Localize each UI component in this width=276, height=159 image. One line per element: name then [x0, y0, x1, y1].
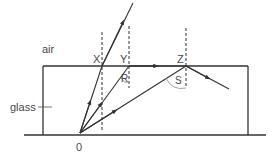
ray-o-to-x-arrow	[80, 102, 90, 133]
ray-z-reflected-arrow	[186, 66, 208, 78]
ray-o-to-y-arrow	[80, 104, 101, 133]
label-point-z: Z	[177, 53, 184, 65]
label-angle-r: R	[121, 73, 128, 84]
glass-block	[43, 66, 248, 135]
ray-o-to-z-arrow	[80, 111, 115, 133]
label-air: air	[42, 43, 55, 55]
label-point-y: Y	[120, 53, 128, 65]
label-origin: 0	[76, 141, 82, 153]
label-point-x: X	[93, 53, 101, 65]
label-glass: glass	[10, 101, 36, 113]
normal-lines	[102, 26, 186, 132]
refraction-diagram: air glass 0 X Y Z R S	[0, 0, 276, 159]
label-angle-s: S	[175, 75, 182, 86]
